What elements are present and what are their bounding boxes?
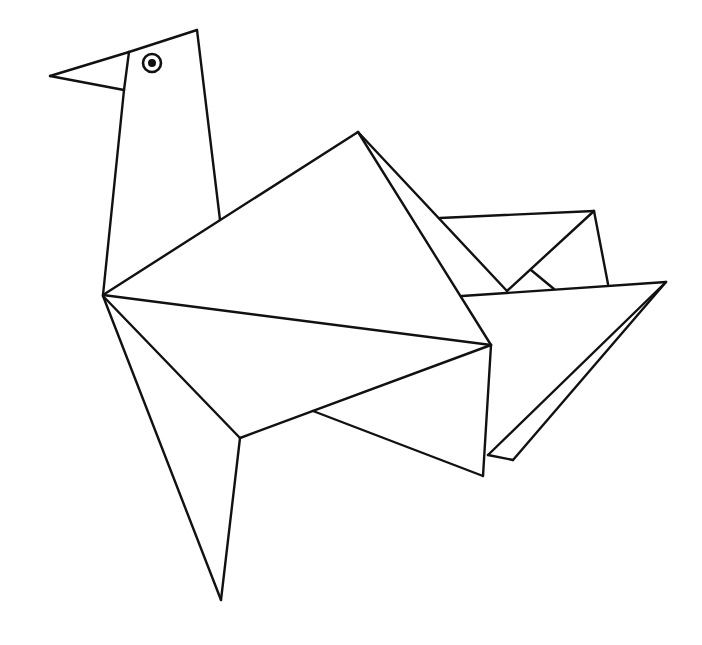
leg-front-line [221, 438, 240, 600]
beak-top-line [50, 52, 129, 76]
tail-inner-line [488, 282, 666, 455]
back-fold-diag-line [507, 211, 594, 291]
beak-base-line [124, 52, 129, 90]
neck-left-line [103, 90, 124, 295]
beak-bottom-line [50, 76, 124, 90]
belly-fold-lower-line [313, 411, 483, 476]
neck-right-line [197, 30, 220, 220]
body-centerline-line [103, 295, 491, 345]
back-fold-top-line [440, 211, 594, 218]
belly-fold-upper-line [240, 345, 491, 438]
wing-fold-b-line [358, 132, 507, 291]
tail-bottom-line [488, 455, 513, 460]
bird-outline [50, 30, 666, 600]
leg-outer-line [103, 296, 221, 600]
back-fold-small-line [531, 270, 554, 289]
leg-inner-line [103, 296, 240, 438]
tail-outer-line [513, 282, 666, 460]
tail-top-line [462, 282, 666, 296]
head-top-line [129, 30, 197, 52]
back-fold-right-line [594, 211, 608, 284]
back-upper-line [103, 132, 358, 295]
origami-bird-svg [0, 0, 702, 645]
wing-fold-a-line [358, 132, 491, 345]
origami-bird-drawing [0, 0, 702, 645]
eye-pupil [148, 59, 156, 67]
